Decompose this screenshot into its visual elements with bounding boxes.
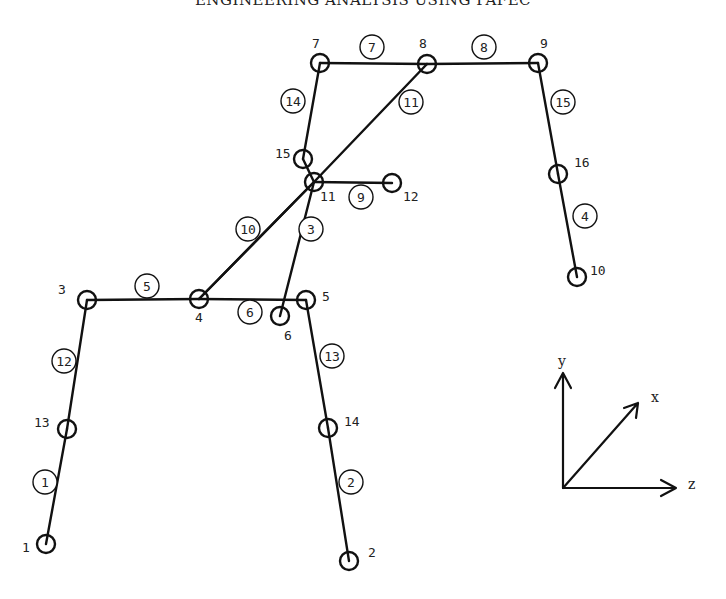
element-number: 4 <box>581 209 589 224</box>
element-number: 9 <box>357 190 365 205</box>
node-number: 15 <box>275 146 291 161</box>
element-number: 7 <box>368 40 376 55</box>
node-number: 2 <box>368 545 376 560</box>
element-number: 8 <box>480 40 488 55</box>
member-5 <box>87 299 199 300</box>
members-layer <box>46 63 577 561</box>
x-axis-label: x <box>651 389 659 405</box>
node-number: 14 <box>344 414 360 429</box>
element-label: 13 <box>320 344 344 368</box>
element-label: 6 <box>238 300 262 324</box>
node-circle-icon <box>297 291 315 309</box>
node: 4 <box>190 290 208 325</box>
node-circle-icon <box>294 150 312 168</box>
node-circle-icon <box>319 419 337 437</box>
node-circle-icon <box>271 307 289 325</box>
element-label: 8 <box>472 35 496 59</box>
node-number: 3 <box>58 282 66 297</box>
element-labels-layer: 123456789101112131415 <box>33 35 597 494</box>
member-2 <box>328 428 349 561</box>
element-number: 5 <box>143 279 151 294</box>
node: 8 <box>418 36 436 73</box>
element-label: 11 <box>399 90 423 114</box>
member-11 <box>314 64 427 182</box>
node-circle-icon <box>529 54 547 72</box>
node-circle-icon <box>549 165 567 183</box>
node-number: 7 <box>312 36 320 51</box>
member-9 <box>314 182 392 183</box>
element-number: 1 <box>41 475 49 490</box>
node-circle-icon <box>37 535 55 553</box>
node-number: 12 <box>403 189 419 204</box>
member-7 <box>320 63 427 64</box>
element-label: 9 <box>349 185 373 209</box>
node-circle-icon <box>58 420 76 438</box>
element-number: 10 <box>240 222 256 237</box>
element-number: 15 <box>555 95 571 110</box>
element-number: 11 <box>403 95 419 110</box>
z-axis-arrow-icon <box>563 480 676 496</box>
element-label: 14 <box>281 89 305 113</box>
element-label: 1 <box>33 470 57 494</box>
node: 3 <box>58 282 96 309</box>
element-label: 4 <box>573 204 597 228</box>
node: 10 <box>568 263 606 286</box>
element-number: 6 <box>246 305 254 320</box>
element-label: 7 <box>360 35 384 59</box>
element-label: 12 <box>52 349 76 373</box>
node-circle-icon <box>190 290 208 308</box>
node: 15 <box>275 146 312 168</box>
node-circle-icon <box>311 54 329 72</box>
node-number: 4 <box>195 310 203 325</box>
node-number: 13 <box>34 415 50 430</box>
element-number: 13 <box>324 349 340 364</box>
node-number: 16 <box>574 155 590 170</box>
y-axis-label: y <box>557 353 566 369</box>
member-8 <box>427 63 538 64</box>
node-number: 1 <box>22 540 30 555</box>
node-number: 6 <box>284 328 292 343</box>
member-4 <box>558 174 577 277</box>
node: 1 <box>22 535 55 555</box>
member-15 <box>538 63 558 174</box>
node-number: 10 <box>590 263 606 278</box>
node-circle-icon <box>568 268 586 286</box>
node: 7 <box>311 36 329 72</box>
element-label: 3 <box>299 217 323 241</box>
node-circle-icon <box>340 552 358 570</box>
coordinate-axes: y x z <box>555 353 695 496</box>
x-axis-arrow-icon <box>563 403 638 488</box>
node: 2 <box>340 545 376 570</box>
node-number: 5 <box>322 289 330 304</box>
element-number: 12 <box>56 354 72 369</box>
node: 9 <box>529 36 548 72</box>
element-label: 5 <box>135 274 159 298</box>
element-number: 14 <box>285 94 301 109</box>
element-label: 15 <box>551 90 575 114</box>
element-label: 2 <box>339 470 363 494</box>
element-number: 2 <box>347 475 355 490</box>
node-circle-icon <box>418 55 436 73</box>
frame-structure-diagram: 123456789101112131415 123456789101112131… <box>0 0 726 599</box>
node-number: 8 <box>419 36 427 51</box>
element-label: 10 <box>236 217 260 241</box>
node: 12 <box>383 174 419 204</box>
nodes-layer: 12345678910111213141516 <box>22 36 606 570</box>
member-14 <box>303 63 320 159</box>
node: 5 <box>297 289 330 309</box>
y-axis-arrow-icon <box>555 373 571 488</box>
z-axis-label: z <box>688 476 695 492</box>
node-circle-icon <box>78 291 96 309</box>
member-segment <box>199 182 314 299</box>
element-number: 3 <box>307 222 315 237</box>
node-number: 11 <box>320 189 336 204</box>
node-number: 9 <box>540 36 548 51</box>
node-circle-icon <box>383 174 401 192</box>
node: 6 <box>271 307 292 343</box>
